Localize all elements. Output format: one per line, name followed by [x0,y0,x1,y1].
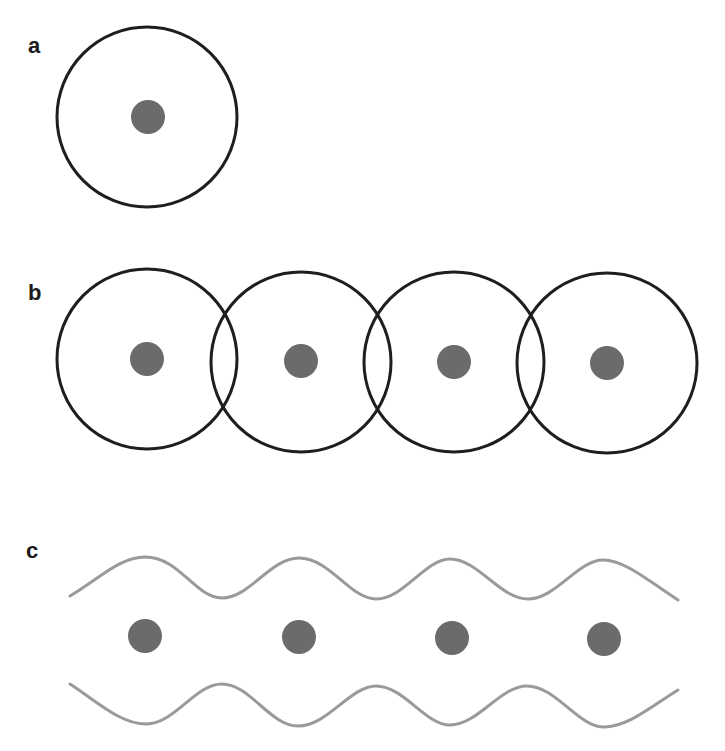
atom-dot [435,621,469,655]
atom-dot [130,342,164,376]
lower-wave-boundary [70,684,678,727]
atom-dot [587,622,621,656]
panel-label-b: b [28,280,41,305]
atom-dot [128,619,162,653]
panel-label-c: c [26,538,38,563]
atom-dot [282,620,316,654]
panel-a: a [28,27,237,207]
diagram-canvas: a b c [0,0,725,751]
upper-wave-boundary [70,557,678,600]
atom-dot [131,100,165,134]
atom-dot [590,346,624,380]
atom-dot [437,345,471,379]
panel-label-a: a [28,33,41,58]
panel-c: c [26,538,678,727]
atom-dot [284,344,318,378]
panel-b: b [28,269,697,453]
